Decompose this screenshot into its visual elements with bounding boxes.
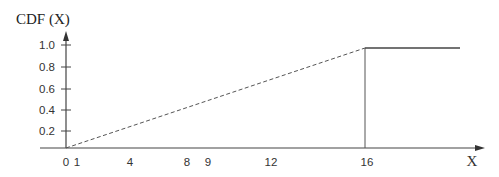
cdf-ramp-dashed-line [66, 48, 365, 148]
y-axis: 1.0 0.8 0.6 0.4 0.2 [39, 31, 71, 148]
x-tick-label: 0 [63, 156, 69, 168]
y-tick-label: 0.2 [39, 125, 55, 137]
chart-title: CDF (X) [16, 11, 70, 28]
x-tick-label: 4 [127, 156, 134, 168]
x-tick-label: 9 [205, 156, 211, 168]
x-tick-label: 8 [184, 156, 190, 168]
y-tick-label: 1.0 [39, 39, 55, 51]
x-axis-arrow-icon [475, 145, 485, 151]
x-tick-label: 12 [265, 156, 278, 168]
cdf-series [66, 48, 460, 148]
cdf-chart: CDF (X) 1.0 0.8 0.6 0.4 0.2 0 1 4 8 9 12… [0, 0, 499, 177]
y-tick-label: 0.4 [39, 104, 56, 116]
y-tick-label: 0.6 [39, 83, 55, 95]
y-tick-label: 0.8 [39, 61, 55, 73]
x-axis: 0 1 4 8 9 12 16 X [40, 145, 485, 169]
x-axis-label: X [467, 153, 478, 169]
y-axis-arrow-icon [63, 31, 69, 41]
x-tick-label: 1 [74, 156, 80, 168]
x-tick-label: 16 [361, 156, 374, 168]
